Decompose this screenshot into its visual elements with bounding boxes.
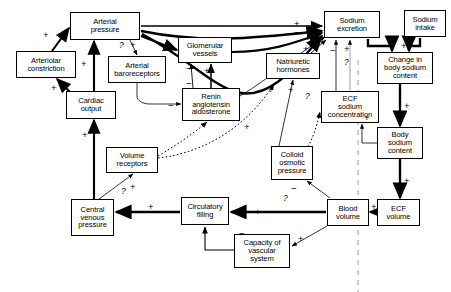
edge-sign-s11: − [168,101,174,111]
node-label-sodium-excretion: Sodiumexcretion [337,17,367,32]
node-arterial-pressure[interactable]: Arterialpressure [70,12,140,40]
edge-sign-s28: ? [121,187,126,196]
node-label-ecf-volume: ECFvolume [387,205,411,220]
edge-sign-s34: − [291,184,297,194]
edge-sign-s35: ? [283,194,288,203]
node-colloid-osmotic-pressure[interactable]: Colloidosmoticpressure [271,146,313,180]
edge-sign-s1: + [43,30,49,40]
node-label-arteriolar-constriction: Arteriolarconstriction [27,57,64,72]
edge-sign-s5: ? [119,41,124,50]
edge-sign-s8: − [186,64,192,74]
node-label-natriuretic-hormones: Natriuretichormones [276,58,310,73]
node-ecf-sodium-concentration[interactable]: ECFsodiumconcentration [321,91,379,123]
edge-arterial-baroreceptors-to-renin [137,83,181,104]
node-label-cardiac-output: Cardiacoutput [78,97,103,112]
node-natriuretic-hormones[interactable]: Natriuretichormones [266,53,320,79]
edge-sign-s6: + [130,40,136,50]
edge-sign-s32: + [255,207,261,217]
node-glomerular-vessels[interactable]: Glomerularvessels [178,37,232,63]
node-body-sodium-content[interactable]: Bodysodiumcontent [377,127,423,159]
edge-capacity-vascular-system-to-circulatory-filling [205,227,234,250]
node-cardiac-output[interactable]: Cardiacoutput [66,91,116,119]
edge-sign-s16: + [303,44,309,54]
node-label-volume-receptors: Volumereceptors [117,152,148,167]
edge-sign-s36: + [371,202,377,212]
edge-sign-s25: + [404,101,410,111]
node-label-central-venous-pressure: Centralvenouspressure [78,206,107,229]
edge-sign-s2: + [81,59,87,69]
node-sodium-excretion[interactable]: Sodiumexcretion [324,11,380,38]
node-label-body-sodium-content: Bodysodiumcontent [388,131,412,154]
edge-sign-s24: + [401,41,407,51]
edge-sign-s20: − [330,46,336,56]
node-arteriolar-constriction[interactable]: Arteriolarconstriction [16,51,76,78]
edge-sign-s19: ? [305,92,310,101]
node-blood-volume[interactable]: Bloodvolume [327,199,369,226]
edge-sign-s17: + [268,85,274,95]
edge-sign-s9: + [204,66,210,76]
edge-sign-s21: + [344,44,350,54]
edge-sign-s12: + [244,122,250,132]
node-label-blood-volume: Bloodvolume [336,205,360,220]
node-label-arterial-baroreceptors: Arterialbaroreceptors [114,62,160,77]
node-label-circulatory-filling: Circulatoryfilling [187,203,222,218]
edge-sign-s23: − [385,41,391,51]
node-arterial-baroreceptors[interactable]: Arterialbaroreceptors [108,56,166,83]
edge-sign-s33: + [298,234,304,244]
edge-arteriolar-constriction-to-arterial-pressure [52,28,69,51]
node-central-venous-pressure[interactable]: Centralvenouspressure [71,199,114,236]
node-circulatory-filling[interactable]: Circulatoryfilling [181,197,229,225]
edge-colloid-osmotic-to-ecf-sodium-dotted [306,112,320,150]
node-label-change-body-sodium: Change inbody sodiumcontent [384,56,426,79]
causal-loop-diagram: ArterialpressureArteriolarconstrictionCa… [0,0,451,292]
node-label-colloid-osmotic-pressure: Colloidosmoticpressure [278,151,307,174]
edge-central-venous-pressure-to-volume-receptors [99,174,133,199]
edge-sign-s7: + [165,43,171,53]
edge-body-sodium-content-to-ecf-sodium-concentration [362,124,377,143]
node-capacity-vascular-system[interactable]: Capacity ofvascularsystem [234,234,290,268]
node-label-sodium-intake: Sodiumintake [412,16,437,31]
edge-blood-volume-to-colloid-osmotic-pressure [307,181,330,198]
node-change-body-sodium[interactable]: Change inbody sodiumcontent [377,52,433,84]
node-ecf-volume[interactable]: ECFvolume [377,199,420,226]
edge-sign-s3: + [51,83,57,93]
edge-sign-s29: + [130,182,136,192]
edge-sign-s4: + [82,130,88,140]
edge-volume-receptors-to-renin [158,122,207,156]
node-label-arterial-pressure: Arterialpressure [91,18,120,33]
edge-sign-s31: − [239,229,245,239]
node-renin-angiotensin[interactable]: Reninangiotensinaldosterone [182,88,240,121]
edge-sign-s22: ? [344,58,349,67]
edge-sign-s10: − [186,79,192,89]
edge-sign-s27: + [364,113,370,123]
node-label-capacity-vascular-system: Capacity ofvascularsystem [244,239,281,262]
node-label-renin-angiotensin: Reninangiotensinaldosterone [192,93,231,116]
edge-sign-s18: + [288,85,294,95]
edge-sign-s30: + [148,202,154,212]
edge-sodium-intake-to-change-body-sodium [409,38,420,51]
node-sodium-intake[interactable]: Sodiumintake [404,10,446,37]
edge-sign-s26: + [404,176,410,186]
node-label-glomerular-vessels: Glomerularvessels [187,42,224,57]
node-volume-receptors[interactable]: Volumereceptors [106,147,158,173]
edge-sign-s15: − [294,37,300,47]
